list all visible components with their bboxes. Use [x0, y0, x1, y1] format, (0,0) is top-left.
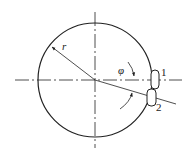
part-1-block [151, 70, 159, 89]
angle-arc-lower [120, 93, 132, 109]
part-2-block [147, 89, 156, 106]
radius-line [52, 47, 95, 80]
part-2-label: 2 [156, 101, 162, 113]
circle-diagram: r φ 1 2 [0, 0, 194, 158]
angle-label: φ [118, 64, 124, 76]
angle-arc-upper [128, 62, 134, 76]
slanted-line [95, 80, 176, 104]
part-1-label: 1 [161, 66, 167, 78]
radius-label: r [62, 40, 67, 52]
